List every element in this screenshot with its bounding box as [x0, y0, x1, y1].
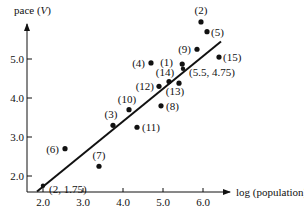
regression-line — [37, 41, 221, 191]
data-point — [166, 79, 171, 84]
point-label: (8) — [166, 100, 179, 113]
point-label: (9) — [178, 43, 191, 56]
y-tick-label: 4.0 — [10, 92, 24, 104]
point-label: (4) — [132, 57, 145, 70]
data-point — [110, 123, 115, 128]
x-tick-label: 2.0 — [36, 196, 50, 208]
data-point — [198, 19, 203, 24]
data-point — [126, 107, 131, 112]
annotation-label: (2, 1.75) — [49, 183, 87, 196]
y-tick-label: 2.0 — [10, 170, 24, 182]
data-point — [158, 103, 163, 108]
x-tick-label: 4.0 — [116, 196, 130, 208]
data-point — [216, 54, 221, 59]
point-label: (7) — [93, 149, 106, 162]
chart-canvas: pace (V) log (population) 2.03.04.05.06.… — [0, 0, 304, 211]
point-label: (12) — [136, 80, 155, 93]
data-point — [204, 29, 209, 34]
data-point — [148, 60, 153, 65]
point-label: (11) — [142, 121, 160, 134]
y-axis-label: pace (V) — [14, 4, 51, 17]
point-label: (14) — [156, 66, 175, 79]
y-tick-label: 3.0 — [10, 131, 24, 143]
point-label: (3) — [105, 108, 118, 121]
data-point — [180, 61, 185, 66]
point-label: (2) — [195, 4, 208, 17]
y-tick-label: 5.0 — [10, 53, 24, 65]
data-point — [96, 164, 101, 169]
point-label: (15) — [223, 51, 242, 64]
data-point — [134, 125, 139, 130]
scatter-chart: pace (V) log (population) 2.03.04.05.06.… — [0, 0, 304, 211]
x-tick-label: 3.0 — [76, 196, 90, 208]
point-label: (13) — [166, 85, 185, 98]
point-label: (10) — [118, 93, 137, 106]
x-tick-label: 6.0 — [196, 196, 210, 208]
x-tick-label: 5.0 — [156, 196, 170, 208]
annotation-label: (5.5, 4.75) — [189, 66, 235, 79]
point-label: (6) — [46, 143, 59, 156]
data-point — [62, 146, 67, 151]
point-label: (5) — [211, 26, 224, 39]
annotation-point — [41, 184, 45, 188]
y-ticks: 2.03.04.05.0 — [10, 53, 32, 182]
data-point — [194, 47, 199, 52]
annotation-point — [181, 67, 185, 71]
data-points: (1)(2)(3)(4)(5)(6)(7)(8)(9)(10)(11)(12)(… — [46, 4, 241, 169]
data-point — [156, 84, 161, 89]
x-axis-label: log (population) — [236, 186, 304, 199]
